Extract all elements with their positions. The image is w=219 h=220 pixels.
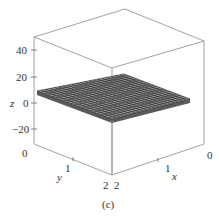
y-tick-label-2: 2: [103, 180, 109, 191]
z-tick-label-40: 40: [16, 45, 27, 56]
z-tick-label-20: 20: [16, 72, 27, 83]
figure-caption: (c): [102, 199, 114, 210]
surface-mesh: [37, 74, 190, 123]
z-tick-label-neg20: −20: [12, 124, 29, 135]
y-tick-label-0: 0: [22, 148, 28, 159]
y-tick-label-1: 1: [65, 163, 71, 174]
x-axis-label: x: [172, 171, 177, 182]
x-tick-label-2: 2: [114, 180, 120, 191]
y-axis-label: y: [57, 172, 62, 183]
z-tick-label-0: 0: [23, 98, 29, 109]
surface-plot: [0, 0, 219, 220]
x-tick-label-0: 0: [207, 150, 213, 161]
x-tick-label-1: 1: [165, 163, 171, 174]
z-axis-label: z: [10, 98, 14, 109]
